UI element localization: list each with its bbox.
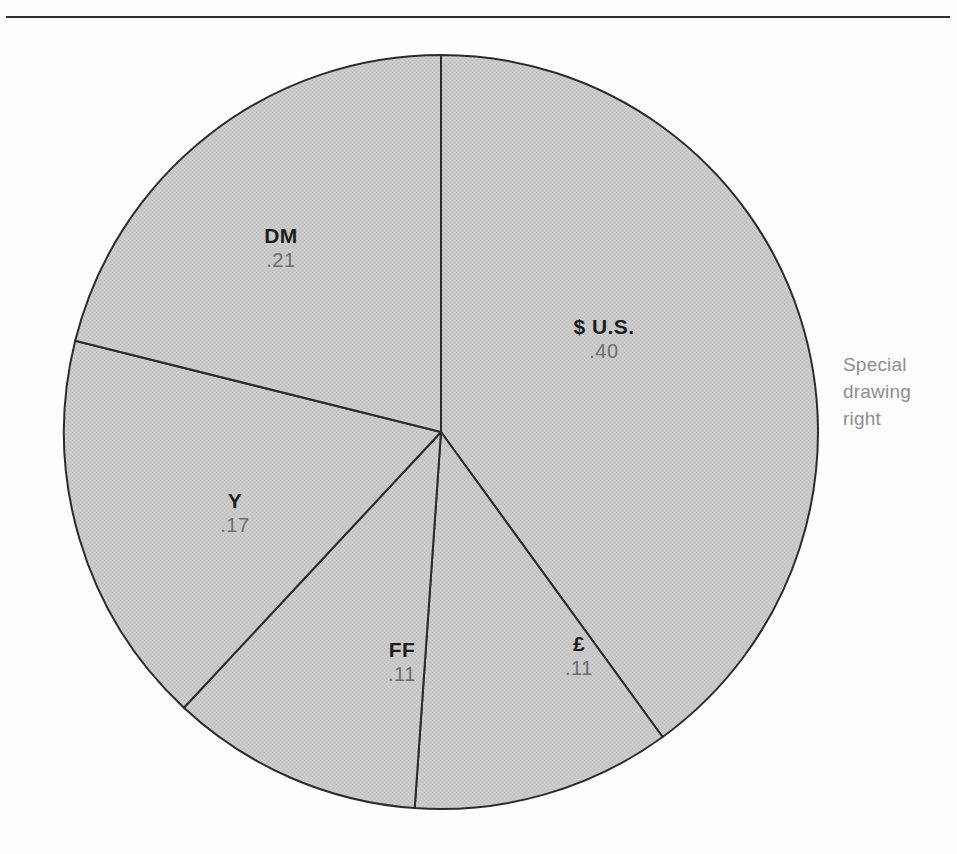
slice-label-ff-abbr: FF	[388, 639, 416, 661]
slice-label-ff: FF .11	[388, 639, 416, 685]
pie-chart-svg	[0, 0, 957, 854]
slice-label-yen: Y .17	[220, 490, 250, 536]
pie-chart-figure: $ U.S. .40 £ .11 FF .11 Y .17 DM .21 Spe…	[0, 0, 957, 854]
slice-label-ff-value: .11	[388, 664, 416, 685]
chart-caption-line-3: right	[843, 408, 881, 429]
chart-caption: Special drawing right	[843, 352, 955, 433]
pie-slices-group	[64, 55, 818, 809]
chart-caption-line-1: Special	[843, 354, 907, 375]
slice-label-usd: $ U.S. .40	[574, 316, 635, 362]
slice-label-usd-value: .40	[574, 341, 635, 362]
slice-label-gbp-value: .11	[565, 658, 593, 679]
slice-label-usd-abbr: $ U.S.	[574, 316, 635, 338]
slice-label-dm-abbr: DM	[264, 225, 297, 247]
slice-label-dm-value: .21	[264, 250, 297, 271]
slice-label-gbp-abbr: £	[565, 633, 593, 655]
chart-caption-line-2: drawing	[843, 381, 911, 402]
slice-label-yen-abbr: Y	[220, 490, 250, 512]
slice-label-yen-value: .17	[220, 515, 250, 536]
slice-label-dm: DM .21	[264, 225, 297, 271]
slice-label-gbp: £ .11	[565, 633, 593, 679]
